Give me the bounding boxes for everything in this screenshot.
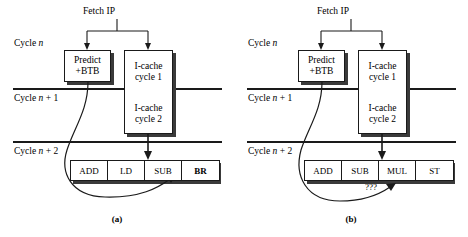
instruction-cell: ST [416,161,453,180]
instruction-cell: SUB [342,161,379,180]
cycle-label-n2-suffix: + 2 [277,146,292,156]
arrowhead-branch-target [386,183,396,191]
cycle-label-n-prefix: Cycle [248,38,273,48]
unknown-target-annotation: ??? [365,182,377,192]
instruction-cell: LD [108,161,145,180]
cycle-label-n-plus-1: Cycle n + 1 [14,93,58,104]
cycle-label-n2-suffix: + 2 [43,146,58,156]
instruction-cell-branch: BR [182,161,219,180]
panel-b: Fetch IP Cycle n Cycle n + 1 Cycle n + 2… [234,0,468,237]
fetch-ip-label: Fetch IP [83,6,115,17]
cycle-label-n-plus-1: Cycle n + 1 [248,93,292,104]
icache-box: I-cache cycle 1 I-cache cycle 2 [124,50,173,134]
icache-cycle-1-line1: I-cache [135,61,163,72]
icache-cycle-2-line2: cycle 2 [135,114,162,125]
icache-cycle-2-half: I-cache cycle 2 [359,93,406,135]
panel-b-graphics [234,0,468,237]
predict-btb-line1: Predict [308,55,335,66]
instruction-cell: ADD [305,161,342,180]
icache-cycle-1-half: I-cache cycle 1 [125,51,172,93]
panel-caption-a: (a) [0,214,234,224]
instruction-row: ADD LD SUB BR [70,160,220,181]
cycle-label-n1-prefix: Cycle [14,93,39,103]
fetch-ip-label: Fetch IP [317,6,349,17]
icache-cycle-2-line1: I-cache [135,103,163,114]
icache-cycle-1-half: I-cache cycle 1 [359,51,406,93]
arrowhead-to-instruction-row [378,151,386,160]
instruction-cell: SUB [145,161,182,180]
predict-btb-line1: Predict [74,55,101,66]
cycle-label-n-var: n [39,38,44,48]
arrowhead-to-instruction-row [144,151,152,160]
arrowhead-to-predict [84,43,90,50]
cycle-label-n1-suffix: + 1 [43,93,58,103]
cycle-label-n1-suffix: + 1 [277,93,292,103]
icache-cycle-1-line2: cycle 1 [369,72,396,83]
instruction-cell: MUL [379,161,416,180]
cycle-label-n-plus-2: Cycle n + 2 [14,146,58,157]
instruction-cell: ADD [71,161,108,180]
predict-btb-box: Predict +BTB [64,50,111,82]
cycle-label-n1-prefix: Cycle [248,93,273,103]
icache-box: I-cache cycle 1 I-cache cycle 2 [358,50,407,134]
cycle-label-n-prefix: Cycle [14,38,39,48]
cycle-label-n2-prefix: Cycle [14,146,39,156]
icache-cycle-1-line1: I-cache [369,61,397,72]
panel-caption-b: (b) [234,214,468,224]
arrowhead-to-predict [318,43,324,50]
predict-btb-box: Predict +BTB [298,50,345,82]
cycle-label-n-var: n [273,38,278,48]
cycle-label-n-plus-2: Cycle n + 2 [248,146,292,157]
instruction-row: ADD SUB MUL ST [304,160,454,181]
panel-a-graphics [0,0,234,237]
arrowhead-to-icache [145,43,151,50]
panel-a: Fetch IP Cycle n Cycle n + 1 Cycle n + 2… [0,0,234,237]
icache-cycle-2-half: I-cache cycle 2 [125,93,172,135]
predict-btb-line2: +BTB [310,66,334,77]
icache-cycle-1-line2: cycle 1 [135,72,162,83]
figure-pipeline-branch-prediction: Fetch IP Cycle n Cycle n + 1 Cycle n + 2… [0,0,468,237]
predict-btb-line2: +BTB [76,66,100,77]
cycle-label-n2-prefix: Cycle [248,146,273,156]
icache-cycle-2-line1: I-cache [369,103,397,114]
arrowhead-to-icache [379,43,385,50]
icache-cycle-2-line2: cycle 2 [369,114,396,125]
cycle-label-n: Cycle n [14,38,43,49]
cycle-label-n: Cycle n [248,38,277,49]
